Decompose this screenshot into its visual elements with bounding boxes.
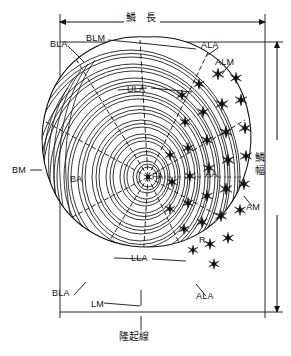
scale-width-label: 鱗幅 [253, 152, 264, 178]
annotation-aa: AA [205, 170, 217, 179]
annotation-r: R [199, 236, 206, 245]
scale-length-label: 鱗 長 [126, 13, 156, 24]
annotation-lm: LM [91, 300, 104, 309]
annotation-ba: BA [70, 175, 82, 184]
annotation-blm: BLM [86, 34, 105, 43]
ridge-line-label: 隆起線 [119, 332, 149, 343]
annotation-bla-top: BLA [50, 40, 68, 49]
annotation-ala-top: ALA [201, 41, 219, 50]
annotation-alm: ALM [215, 58, 234, 67]
scale-drawing [0, 0, 291, 356]
annotation-ula: ULA [127, 85, 145, 94]
figure-canvas: BLA BLM ALA ALM ULA BM BA FA AA AM R LLA… [0, 0, 291, 356]
annotation-am: AM [246, 203, 260, 212]
focus-dot [146, 175, 150, 179]
annotation-ala-bottom: ALA [196, 292, 214, 301]
annotation-bla-bottom: BLA [52, 289, 70, 298]
annotation-fa: FA [152, 172, 163, 181]
annotation-bm: BM [12, 166, 26, 175]
annotation-lla: LLA [131, 254, 148, 263]
